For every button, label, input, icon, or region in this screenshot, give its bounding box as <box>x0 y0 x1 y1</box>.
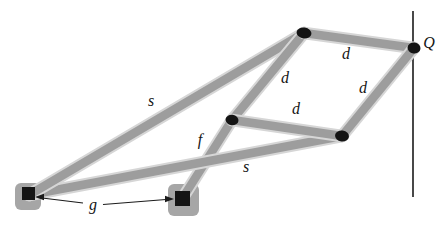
label-Q: Q <box>423 34 435 51</box>
link-d-right <box>342 48 414 136</box>
anchor-pin-F <box>175 191 190 206</box>
label-s-upper: s <box>148 92 154 109</box>
anchor-pin-O <box>22 187 35 200</box>
dimension-g-line-1 <box>103 200 166 205</box>
label-d-top: d <box>342 45 351 62</box>
figure-canvas: ssfgddddQ <box>0 0 447 225</box>
label-d-left: d <box>281 69 290 86</box>
dimension-g-line-0 <box>38 198 83 204</box>
peaucellier-linkage-diagram: ssfgddddQ <box>0 0 447 225</box>
label-f: f <box>198 131 205 149</box>
label-d-middle: d <box>292 100 301 117</box>
label-g: g <box>89 196 97 214</box>
label-d-right: d <box>359 79 368 96</box>
label-s-lower: s <box>243 158 249 175</box>
